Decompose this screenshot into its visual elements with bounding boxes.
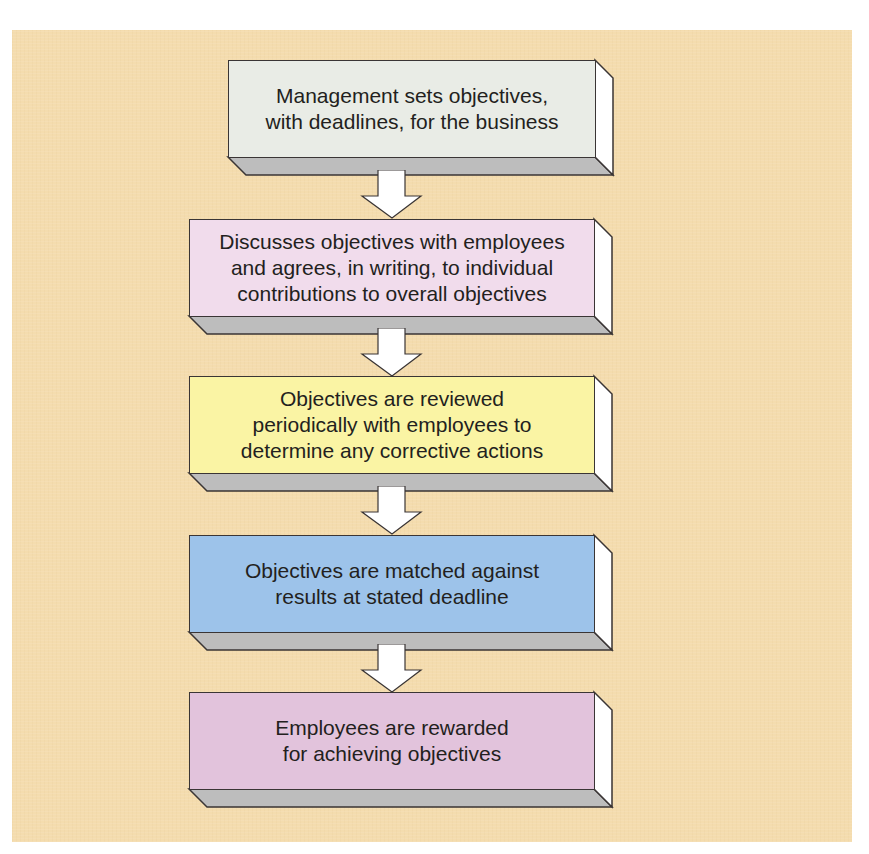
down-arrow-icon (360, 328, 424, 378)
down-arrow-icon (360, 170, 424, 220)
step-box-1: Management sets objectives, with deadlin… (228, 60, 614, 176)
down-arrow-icon (360, 644, 424, 694)
down-arrow-icon (360, 486, 424, 536)
step-box-3: Objectives are reviewed periodically wit… (189, 376, 613, 492)
step-label-2: Discusses objectives with employees and … (189, 219, 595, 317)
step-label-1: Management sets objectives, with deadlin… (228, 60, 596, 158)
step-label-3: Objectives are reviewed periodically wit… (189, 376, 595, 474)
step-box-4: Objectives are matched against results a… (189, 535, 613, 651)
step-box-2: Discusses objectives with employees and … (189, 219, 613, 335)
step-label-5: Employees are rewarded for achieving obj… (189, 692, 595, 790)
step-label-4: Objectives are matched against results a… (189, 535, 595, 633)
step-box-5: Employees are rewarded for achieving obj… (189, 692, 613, 808)
